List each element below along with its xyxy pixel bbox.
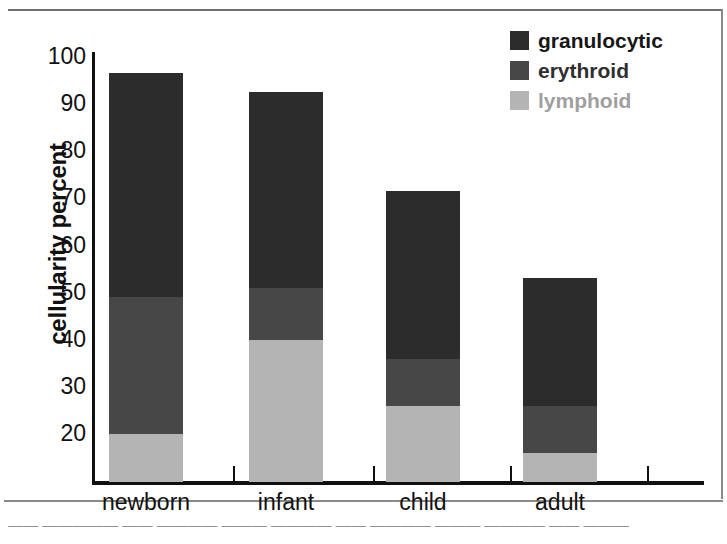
y-axis-tick-label: 50 (42, 281, 86, 304)
y-axis-tick-label: 70 (42, 186, 86, 209)
bar-segment-child-erythroid[interactable] (386, 359, 460, 406)
bar-segment-adult-erythroid[interactable] (523, 406, 597, 453)
legend-label-erythroid: erythroid (538, 60, 629, 81)
legend-label-lymphoid: lymphoid (538, 90, 631, 111)
figure-page: cellularity percent 2030405060708090100 … (0, 0, 727, 544)
bar-segment-infant-granulocytic[interactable] (249, 92, 323, 288)
bar-segment-adult-lymphoid[interactable] (523, 453, 597, 482)
legend-item-erythroid[interactable]: erythroid (510, 56, 710, 84)
y-axis-tick-label: 40 (42, 328, 86, 351)
legend-item-granulocytic[interactable]: granulocytic (510, 26, 710, 54)
x-axis-tick (647, 466, 649, 481)
y-axis-tick-label: 60 (42, 234, 86, 257)
y-axis-tick-label: 90 (42, 92, 86, 115)
bar-segment-child-lymphoid[interactable] (386, 406, 460, 482)
y-axis-tick-label: 20 (42, 422, 86, 445)
page-frame-top-rule (8, 9, 722, 11)
chart-legend: granulocyticerythroidlymphoid (510, 26, 710, 116)
bar-adult[interactable] (523, 278, 597, 482)
legend-swatch-erythroid (510, 61, 529, 80)
bar-infant[interactable] (249, 92, 323, 482)
bar-segment-newborn-erythroid[interactable] (109, 297, 183, 434)
x-axis-tick (373, 466, 375, 481)
bar-segment-newborn-lymphoid[interactable] (109, 434, 183, 482)
y-axis-tick-label: 80 (42, 139, 86, 162)
bar-segment-adult-granulocytic[interactable] (523, 278, 597, 405)
y-axis-tick-labels: 2030405060708090100 (34, 0, 86, 544)
y-axis-tick-label: 30 (42, 375, 86, 398)
legend-label-granulocytic: granulocytic (538, 30, 663, 51)
page-caption-text: —— ————— —— ———— ——— ———— —— ———— ——— ——… (8, 512, 720, 538)
x-axis-tick (233, 466, 235, 481)
bar-segment-infant-erythroid[interactable] (249, 288, 323, 340)
bar-segment-infant-lymphoid[interactable] (249, 340, 323, 482)
legend-item-lymphoid[interactable]: lymphoid (510, 86, 710, 114)
y-axis-line (92, 52, 95, 484)
bar-newborn[interactable] (109, 73, 183, 482)
x-axis-tick (510, 466, 512, 481)
bar-segment-newborn-granulocytic[interactable] (109, 73, 183, 297)
bar-segment-child-granulocytic[interactable] (386, 191, 460, 358)
legend-swatch-lymphoid (510, 91, 529, 110)
y-axis-tick-label: 100 (42, 45, 86, 68)
page-frame-right-rule (721, 9, 723, 499)
bar-child[interactable] (386, 191, 460, 482)
legend-swatch-granulocytic (510, 31, 529, 50)
